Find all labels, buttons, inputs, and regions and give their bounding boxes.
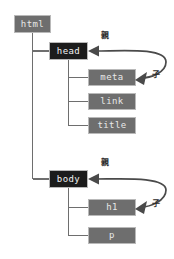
dom-tree-diagram: html head meta link title body h1 p (0, 0, 174, 259)
annotation-parent-head: 親 (101, 32, 109, 40)
annotation-child-meta: 子 (152, 71, 160, 79)
annotation-child-h1-text: 子 (152, 199, 160, 208)
relation-arrows-layer (0, 0, 174, 259)
annotation-child-meta-text: 子 (152, 70, 160, 79)
annotation-parent-body: 親 (101, 159, 109, 167)
arrowhead-parent-body (88, 174, 99, 185)
arrowhead-child-meta (135, 72, 147, 85)
annotation-parent-head-text: 親 (101, 31, 109, 40)
arrowhead-child-h1 (135, 201, 147, 214)
arrowhead-parent-head (88, 46, 99, 57)
annotation-parent-body-text: 親 (101, 158, 109, 167)
annotation-child-h1: 子 (152, 200, 160, 208)
